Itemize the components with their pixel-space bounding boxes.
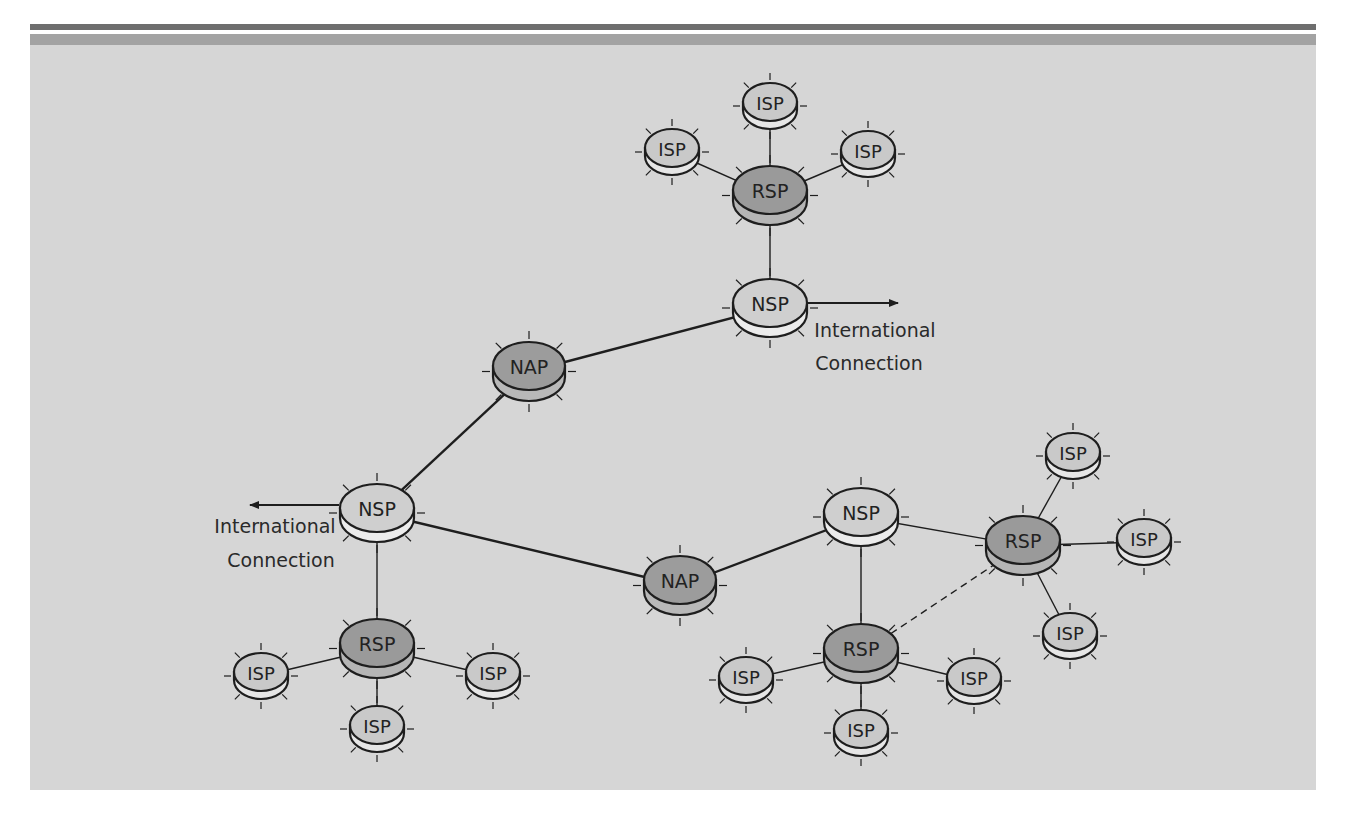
- node-label: ISP: [363, 716, 391, 737]
- intl-connection-left-line2: Connection: [227, 549, 335, 571]
- node-label: ISP: [1130, 529, 1158, 550]
- node-nap_lower: NAP: [633, 545, 727, 626]
- node-rsp_left: RSP: [329, 608, 425, 689]
- nodes-layer: ISPISPISPRSPNSPNAPNSPNAPNSPRSPISPISPISPR…: [224, 73, 1181, 766]
- link-nsp_left-to-nap_lower: [377, 513, 680, 586]
- node-nap_upper: NAP: [482, 331, 576, 412]
- node-isp_top_right: ISP: [831, 121, 905, 187]
- node-isp_bottom_right: ISP: [937, 648, 1011, 714]
- node-label: ISP: [847, 720, 875, 741]
- node-label: NSP: [751, 293, 789, 315]
- node-isp_left_bottom: ISP: [340, 696, 414, 762]
- node-label: RSP: [752, 180, 789, 202]
- node-label: ISP: [732, 667, 760, 688]
- node-isp_right_bottom: ISP: [1033, 603, 1107, 669]
- node-label: NSP: [358, 498, 396, 520]
- node-label: RSP: [359, 633, 396, 655]
- node-isp_top_left: ISP: [635, 119, 709, 185]
- node-nsp_right: NSP: [813, 477, 909, 557]
- network-diagram: ISPISPISPRSPNSPNAPNSPNAPNSPRSPISPISPISPR…: [0, 0, 1345, 817]
- intl-connection-right-line1: International: [814, 319, 935, 341]
- intl-connection-right-line2: Connection: [815, 352, 923, 374]
- node-label: ISP: [1056, 623, 1084, 644]
- node-label: NAP: [510, 356, 549, 378]
- node-rsp_right: RSP: [975, 505, 1071, 586]
- node-nsp_top: NSP: [722, 268, 818, 348]
- node-label: NAP: [661, 570, 700, 592]
- node-label: ISP: [479, 663, 507, 684]
- node-label: ISP: [658, 139, 686, 160]
- node-isp_bottom_bottom: ISP: [824, 700, 898, 766]
- node-isp_left_right: ISP: [456, 643, 530, 709]
- node-label: ISP: [1059, 443, 1087, 464]
- node-isp_right_right: ISP: [1107, 509, 1181, 575]
- node-label: NSP: [842, 502, 880, 524]
- node-label: RSP: [1005, 530, 1042, 552]
- node-rsp_bottom: RSP: [813, 613, 909, 694]
- node-label: RSP: [843, 638, 880, 660]
- node-label: ISP: [960, 668, 988, 689]
- intl-connection-left-line1: International: [214, 515, 335, 537]
- node-isp_right_top: ISP: [1036, 423, 1110, 489]
- node-label: ISP: [756, 93, 784, 114]
- node-rsp_top: RSP: [722, 155, 818, 236]
- node-nsp_left: NSP: [329, 473, 425, 553]
- node-isp_left_left: ISP: [224, 643, 298, 709]
- node-isp_bottom_left: ISP: [709, 647, 783, 713]
- node-label: ISP: [247, 663, 275, 684]
- node-label: ISP: [854, 141, 882, 162]
- node-isp_top_top: ISP: [733, 73, 807, 139]
